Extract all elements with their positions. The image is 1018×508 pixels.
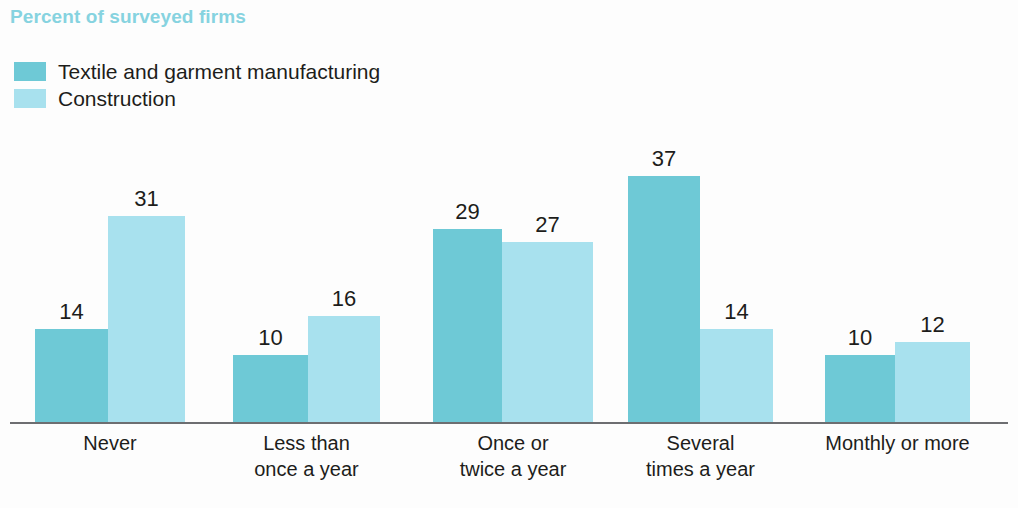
bar-0-0 bbox=[35, 329, 108, 422]
bar-0-1 bbox=[233, 355, 308, 422]
bar-chart-plot-area: 1431Never1016Less thanonce a year2927Onc… bbox=[0, 0, 1018, 508]
bar-value-label: 29 bbox=[433, 199, 502, 225]
bar-1-1 bbox=[308, 316, 380, 422]
x-axis-line bbox=[10, 422, 1008, 424]
x-axis-category-0: Never bbox=[0, 431, 220, 457]
category-label-line: Never bbox=[0, 431, 220, 457]
x-axis-category-3: Severaltimes a year bbox=[591, 431, 811, 482]
category-label-line: once a year bbox=[197, 457, 417, 483]
bar-0-3 bbox=[628, 176, 700, 422]
bar-value-label: 37 bbox=[628, 146, 700, 172]
category-label-line: Several bbox=[591, 431, 811, 457]
bar-0-2 bbox=[433, 229, 502, 422]
bar-value-label: 14 bbox=[35, 299, 108, 325]
bar-1-2 bbox=[502, 242, 593, 422]
category-label-line: times a year bbox=[591, 457, 811, 483]
x-axis-category-1: Less thanonce a year bbox=[197, 431, 417, 482]
bar-value-label: 10 bbox=[825, 325, 895, 351]
bar-1-3 bbox=[700, 329, 773, 422]
bar-value-label: 31 bbox=[108, 186, 185, 212]
bar-value-label: 16 bbox=[308, 286, 380, 312]
category-label-line: Less than bbox=[197, 431, 417, 457]
bar-value-label: 12 bbox=[895, 312, 970, 338]
bar-value-label: 14 bbox=[700, 299, 773, 325]
bar-value-label: 10 bbox=[233, 325, 308, 351]
bar-1-0 bbox=[108, 216, 185, 422]
bar-1-4 bbox=[895, 342, 970, 422]
x-axis-category-4: Monthly or more bbox=[788, 431, 1008, 457]
bar-0-4 bbox=[825, 355, 895, 422]
bar-value-label: 27 bbox=[502, 212, 593, 238]
category-label-line: Monthly or more bbox=[788, 431, 1008, 457]
